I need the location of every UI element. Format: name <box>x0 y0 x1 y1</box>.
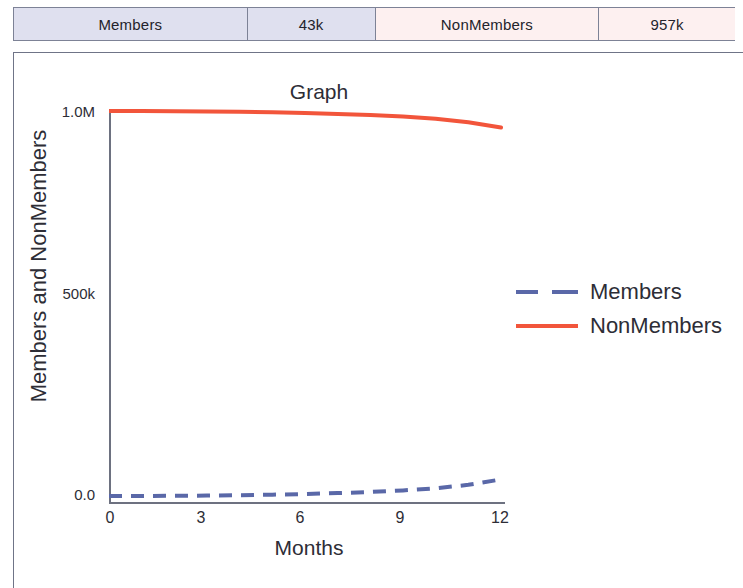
chart-title: Graph <box>14 80 624 104</box>
x-tick-label-9: 9 <box>380 509 420 527</box>
summary-cell-members-label[interactable]: Members <box>14 8 248 40</box>
series-line-nonmembers <box>109 111 501 128</box>
x-tick-label-6: 6 <box>280 509 320 527</box>
legend-entry-nonmembers[interactable]: NonMembers <box>516 309 722 343</box>
legend-label-members: Members <box>590 279 682 305</box>
summary-cell-members-value[interactable]: 43k <box>248 8 376 40</box>
x-tick-label-0: 0 <box>90 509 130 527</box>
legend-swatch-nonmembers-icon <box>516 315 578 337</box>
chart-legend: Members NonMembers <box>516 275 722 343</box>
x-axis-title: Months <box>209 536 409 560</box>
summary-cell-nonmembers-value[interactable]: 957k <box>599 8 735 40</box>
y-tick-label-0: 0.0 <box>35 486 95 503</box>
x-tick-label-12: 12 <box>480 509 520 527</box>
chart-panel: Graph Members and NonMembers Months 1.0M… <box>13 52 743 588</box>
legend-swatch-members-icon <box>516 281 578 303</box>
summary-cell-nonmembers-label[interactable]: NonMembers <box>376 8 600 40</box>
legend-entry-members[interactable]: Members <box>516 275 722 309</box>
plot-area <box>109 105 505 504</box>
summary-table: Members 43k NonMembers 957k <box>13 7 735 41</box>
legend-label-nonmembers: NonMembers <box>590 313 722 339</box>
x-tick-label-3: 3 <box>181 509 221 527</box>
y-axis-title: Members and NonMembers <box>26 96 52 436</box>
y-tick-label-1000k: 1.0M <box>35 103 95 120</box>
plot-svg <box>109 105 505 504</box>
series-line-members <box>109 479 501 496</box>
y-tick-label-500k: 500k <box>35 285 95 302</box>
